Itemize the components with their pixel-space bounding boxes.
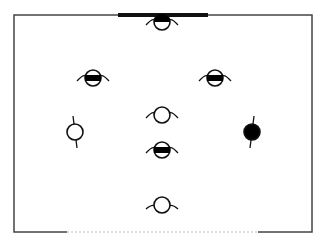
player-body: [154, 107, 170, 123]
player-marker: [67, 116, 83, 148]
player-band: [207, 75, 223, 81]
player-marker: [146, 107, 178, 123]
player-band: [154, 147, 170, 153]
player-marker: [77, 70, 109, 86]
players-group: [67, 14, 260, 213]
formation-diagram: [0, 0, 324, 248]
player-body: [67, 124, 83, 140]
player-band: [85, 75, 101, 81]
player-body: [154, 197, 170, 213]
player-marker: [146, 197, 178, 213]
player-marker: [146, 142, 178, 158]
player-marker: [199, 70, 231, 86]
player-body: [244, 124, 260, 140]
player-marker: [244, 116, 260, 148]
